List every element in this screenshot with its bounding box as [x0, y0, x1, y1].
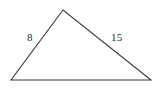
triangle-outline: [11, 10, 151, 80]
triangle-figure: 8 15: [0, 0, 163, 91]
triangle-shape: [0, 0, 163, 91]
side-label-right: 15: [111, 32, 122, 43]
side-label-left: 8: [27, 32, 33, 43]
